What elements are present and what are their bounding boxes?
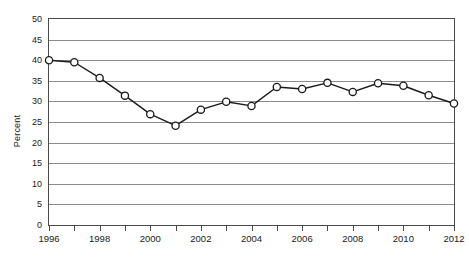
x-tick xyxy=(226,226,227,231)
x-tick-label: 2008 xyxy=(333,233,373,244)
x-tick xyxy=(150,226,151,231)
data-point-marker xyxy=(121,92,128,99)
data-point-marker xyxy=(450,100,457,107)
data-point-marker xyxy=(425,92,432,99)
x-tick xyxy=(378,226,379,231)
data-point-marker xyxy=(374,80,381,87)
x-tick xyxy=(454,226,455,231)
x-tick-label: 2012 xyxy=(434,233,469,244)
x-tick xyxy=(353,226,354,231)
y-axis-title-text: Percent xyxy=(12,115,22,147)
x-tick xyxy=(429,226,430,231)
x-tick-label: 2002 xyxy=(181,233,221,244)
data-point-marker xyxy=(71,59,78,66)
data-point-marker xyxy=(248,102,255,109)
x-tick-label: 2000 xyxy=(130,233,170,244)
x-tick xyxy=(201,226,202,231)
data-point-marker xyxy=(96,74,103,81)
x-axis-tick-labels: 199619982000200220042006200820102012 xyxy=(0,233,469,249)
series-line xyxy=(49,60,454,126)
x-tick xyxy=(327,226,328,231)
data-point-marker xyxy=(45,57,52,64)
x-tick xyxy=(176,226,177,231)
x-tick xyxy=(74,226,75,231)
x-tick-label: 1996 xyxy=(29,233,69,244)
x-tick-label: 1998 xyxy=(80,233,120,244)
data-point-marker xyxy=(400,82,407,89)
x-tick xyxy=(403,226,404,231)
data-point-marker xyxy=(223,98,230,105)
x-tick xyxy=(252,226,253,231)
data-point-marker xyxy=(273,83,280,90)
x-tick xyxy=(49,226,50,231)
x-tick xyxy=(100,226,101,231)
data-series-percent xyxy=(49,19,456,227)
x-tick xyxy=(302,226,303,231)
x-axis-ticks xyxy=(48,226,455,232)
data-point-marker xyxy=(197,106,204,113)
plot-area xyxy=(48,18,455,226)
x-tick-label: 2006 xyxy=(282,233,322,244)
data-point-marker xyxy=(172,122,179,129)
data-point-marker xyxy=(349,88,356,95)
x-tick-label: 2010 xyxy=(383,233,423,244)
data-point-marker xyxy=(324,79,331,86)
data-point-marker xyxy=(147,111,154,118)
y-axis-title: Percent xyxy=(6,0,28,262)
data-point-marker xyxy=(299,85,306,92)
x-tick-label: 2004 xyxy=(232,233,272,244)
x-tick xyxy=(125,226,126,231)
line-chart: Percent 05101520253035404550 19961998200… xyxy=(0,0,469,262)
x-tick xyxy=(277,226,278,231)
